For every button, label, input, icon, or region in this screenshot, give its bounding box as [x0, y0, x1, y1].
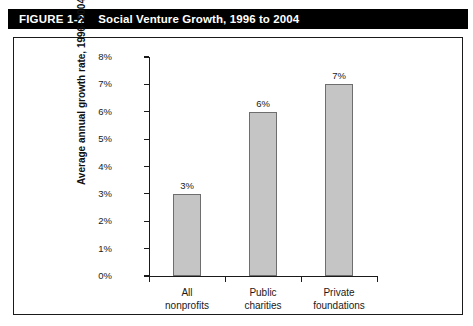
y-tick-mark	[144, 84, 149, 85]
x-tick-mark	[377, 276, 378, 282]
y-tick-mark	[144, 221, 149, 222]
bar-value-label: 6%	[233, 99, 293, 109]
y-tick-label: 4%	[72, 162, 112, 172]
x-axis-line	[149, 276, 377, 277]
x-category-line-2: foundations	[287, 300, 391, 313]
bar-private-foundations[interactable]	[325, 84, 353, 276]
y-axis-title: Average annual growth rate, 1996–2004	[76, 0, 87, 202]
y-tick-label: 7%	[72, 79, 112, 89]
y-tick-label: 0%	[72, 271, 112, 281]
y-tick-mark	[144, 56, 149, 57]
y-tick-label: 8%	[72, 52, 112, 62]
x-category-line-1: Private	[287, 287, 391, 300]
y-tick-label: 2%	[72, 216, 112, 226]
bar-value-label: 7%	[309, 71, 369, 81]
y-tick-mark	[144, 248, 149, 249]
x-tick-mark	[149, 276, 150, 282]
x-tick-mark	[301, 276, 302, 282]
y-tick-label: 1%	[72, 244, 112, 254]
y-tick-label: 6%	[72, 107, 112, 117]
chart-frame: Average annual growth rate, 1996–2004 0%…	[13, 37, 463, 315]
figure-number: FIGURE 1-2	[19, 13, 84, 25]
y-tick-label: 5%	[72, 134, 112, 144]
y-tick-mark	[144, 166, 149, 167]
bar-all-nonprofits[interactable]	[173, 194, 201, 276]
y-axis-line	[149, 57, 150, 277]
y-tick-label: 3%	[72, 189, 112, 199]
bar-value-label: 3%	[157, 181, 217, 191]
x-category-label-private-foundations: Private foundations	[287, 287, 391, 312]
y-tick-mark	[144, 139, 149, 140]
y-tick-mark	[144, 111, 149, 112]
bar-chart-plot: Average annual growth rate, 1996–2004 0%…	[14, 38, 464, 316]
bar-public-charities[interactable]	[249, 112, 277, 276]
y-tick-mark	[144, 193, 149, 194]
x-tick-mark	[225, 276, 226, 282]
figure-title: Social Venture Growth, 1996 to 2004	[98, 13, 299, 25]
